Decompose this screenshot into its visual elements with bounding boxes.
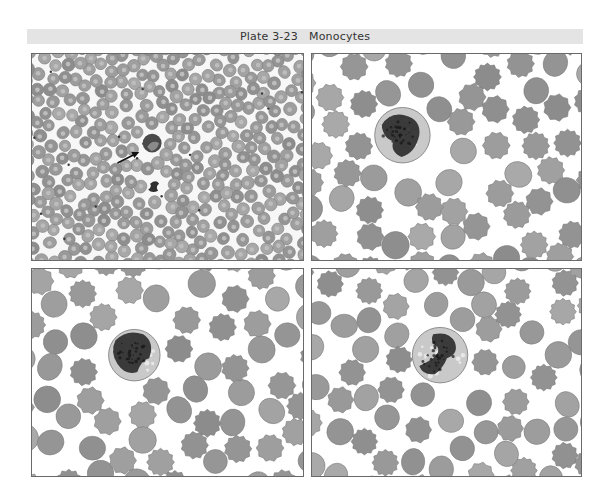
monocyte-cell [375,107,430,162]
platelet [261,92,263,94]
platelet [267,107,269,109]
platelet [33,136,35,138]
platelet [160,195,162,197]
micrograph-panel-bottom-right [311,268,582,477]
red-blood-cell [203,449,227,473]
plate-header: Plate 3-23 Monocytes [27,29,583,44]
platelet [189,154,191,156]
platelet [40,213,42,215]
platelet [50,71,52,73]
platelet [95,205,97,207]
micrograph-panel-top-right [311,53,582,261]
plate-title: Plate 3-23 Monocytes [240,30,370,43]
platelet [67,164,69,166]
red-blood-cell [101,174,113,187]
red-blood-cell [105,65,119,77]
monocyte-image-1 [312,54,581,260]
red-blood-cell [87,167,100,180]
red-blood-cell [228,54,239,64]
monocyte-image-2 [32,269,303,476]
red-blood-cell [225,208,238,221]
red-blood-cell [244,190,257,203]
platelet [118,136,120,138]
platelet [198,209,200,211]
micrograph-panel-top-left [31,53,304,261]
red-blood-cell [67,109,79,121]
platelet [63,238,65,240]
platelet [141,88,143,90]
monocyte-cell [109,329,161,381]
platelet [136,157,138,159]
micrograph-panel-bottom-left [31,268,304,477]
monocyte-cell [143,134,162,153]
blood-smear-low-power-image [32,54,303,260]
monocyte-image-3 [312,269,581,476]
monocyte-cell [412,327,467,382]
red-blood-cell [254,175,267,188]
red-blood-cell [236,233,248,247]
